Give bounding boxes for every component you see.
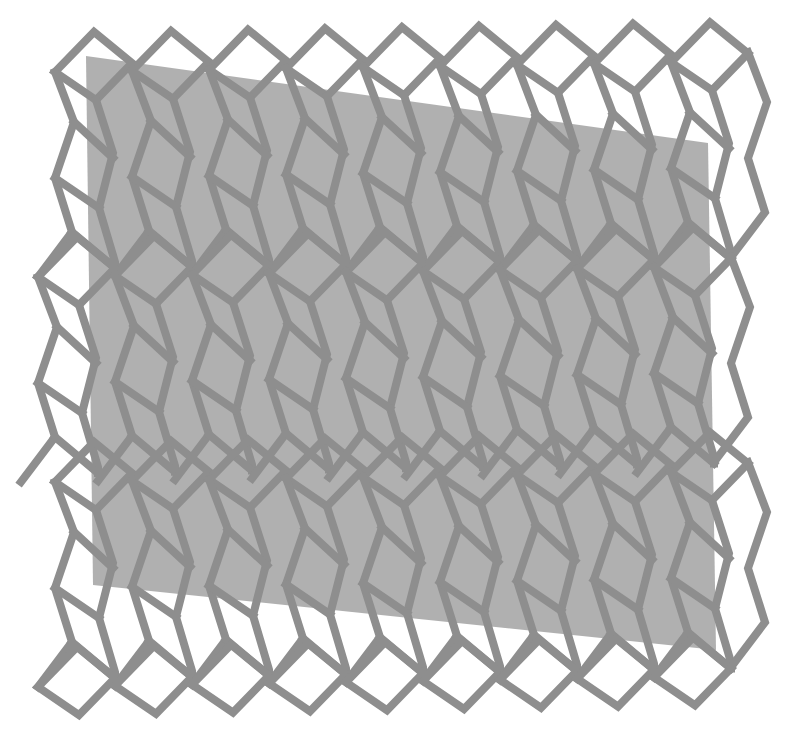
geometric-lattice-artwork [0, 0, 801, 744]
